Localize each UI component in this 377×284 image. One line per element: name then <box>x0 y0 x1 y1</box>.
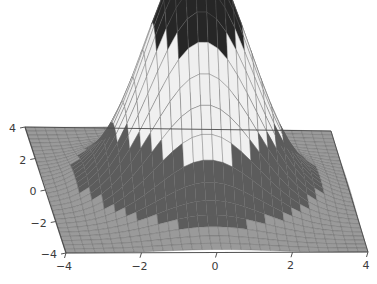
x-axis-tick-label: 4 <box>363 260 370 271</box>
x-axis-tick-label: −4 <box>56 261 72 272</box>
y-axis-tick-label: 0 <box>0 186 37 197</box>
x-axis-tick-label: −2 <box>131 261 147 272</box>
surface-plot-figure: −4−2024 −4−2024 <box>0 0 377 284</box>
y-axis-tick-label: −4 <box>0 249 57 260</box>
y-axis-tick-label: −2 <box>0 217 47 228</box>
x-axis-tick-label: 2 <box>287 260 294 271</box>
x-axis-tick-label: 0 <box>212 261 219 272</box>
y-axis-tick-label: 4 <box>0 123 16 134</box>
y-axis-tick-label: 2 <box>0 154 26 165</box>
surface-plot-canvas <box>0 0 377 284</box>
